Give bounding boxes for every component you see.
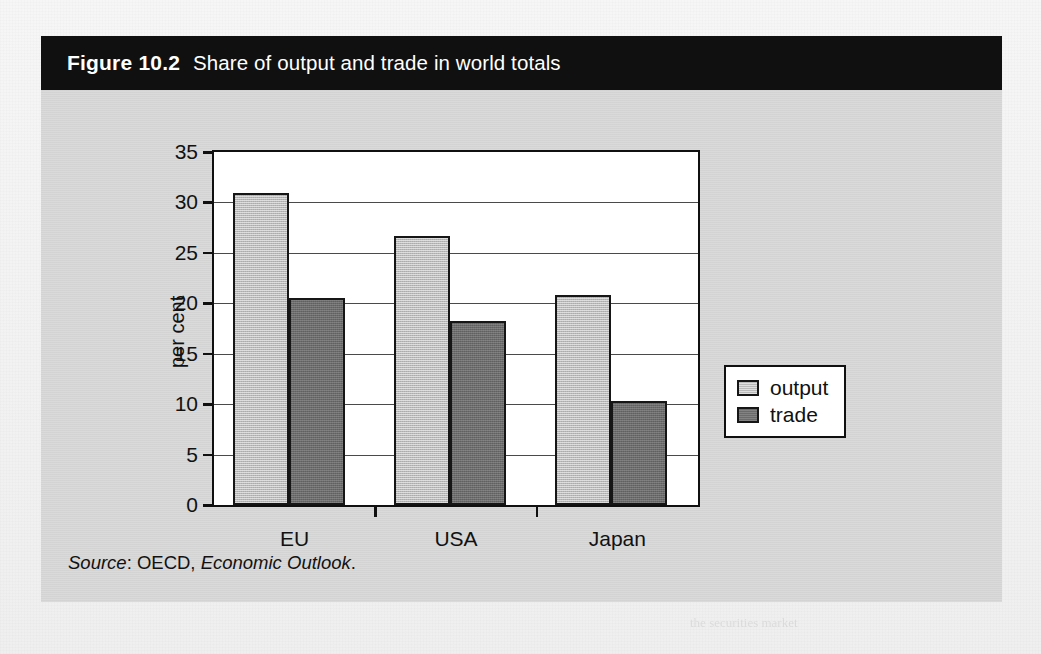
y-axis-tick-label: 15 xyxy=(175,342,198,366)
chart-legend: output trade xyxy=(724,365,846,438)
y-axis-tick-label: 30 xyxy=(175,190,198,214)
bar-usa-trade xyxy=(450,321,506,505)
legend-label-output: output xyxy=(770,377,828,398)
x-axis-tick xyxy=(536,505,539,517)
x-axis-tick xyxy=(374,505,377,517)
figure-number: Figure 10.2 xyxy=(67,51,180,75)
y-axis-tick xyxy=(203,353,214,356)
y-axis-tick xyxy=(203,302,214,305)
y-axis-tick-label: 0 xyxy=(186,493,198,517)
y-axis-tick xyxy=(203,201,214,204)
figure-caption: Share of output and trade in world total… xyxy=(193,51,561,75)
figure-source-note: Source: OECD, Economic Outlook. xyxy=(68,552,356,574)
y-axis-tick xyxy=(203,151,214,154)
x-axis-label-japan: Japan xyxy=(589,527,646,551)
y-axis-tick-label: 35 xyxy=(175,140,198,164)
bar-japan-trade xyxy=(611,401,667,505)
legend-item-output[interactable]: output xyxy=(737,374,828,401)
plot-area: 05101520253035 EUUSAJapan xyxy=(212,150,700,507)
bar-eu-trade xyxy=(289,298,345,505)
x-axis-label-eu: EU xyxy=(280,527,309,551)
source-end: . xyxy=(351,552,356,573)
legend-swatch-trade-icon xyxy=(737,407,759,423)
y-axis-tick-label: 10 xyxy=(175,392,198,416)
bar-chart: per cent 05101520253035 EUUSAJapan outpu… xyxy=(41,90,1002,602)
bar-eu-output xyxy=(233,193,289,505)
y-axis-tick-label: 5 xyxy=(186,443,198,467)
source-separator: : OECD, xyxy=(127,552,201,573)
bar-usa-output xyxy=(394,236,450,505)
source-publication: Economic Outlook xyxy=(201,552,351,573)
figure-container: Figure 10.2 Share of output and trade in… xyxy=(41,36,1002,602)
y-axis-tick-label: 20 xyxy=(175,291,198,315)
figure-title-bar: Figure 10.2 Share of output and trade in… xyxy=(41,36,1002,90)
legend-swatch-output-icon xyxy=(737,380,759,396)
bar-japan-output xyxy=(555,295,611,505)
y-axis-tick xyxy=(203,504,214,507)
y-axis-tick xyxy=(203,252,214,255)
legend-label-trade: trade xyxy=(770,404,818,425)
source-prefix: Source xyxy=(68,552,127,573)
y-axis-tick xyxy=(203,403,214,406)
bar-group-layer xyxy=(214,152,698,505)
ghost-footer-line: the securities market xyxy=(690,615,798,631)
legend-item-trade[interactable]: trade xyxy=(737,401,828,428)
y-axis-tick xyxy=(203,454,214,457)
y-axis-tick-label: 25 xyxy=(175,241,198,265)
x-axis-label-usa: USA xyxy=(434,527,477,551)
